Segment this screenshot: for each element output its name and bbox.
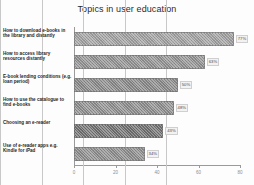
x-axis-tick-label: 0 <box>73 170 76 175</box>
bar <box>74 147 145 161</box>
bar <box>74 78 178 92</box>
category-label: How to use the catalogue to find e-books <box>3 97 72 108</box>
bar <box>74 101 174 115</box>
x-axis-tick <box>157 165 158 168</box>
bar-value-label: 48% <box>176 104 188 112</box>
category-label: Use of e-reader apps e.g. Kindle for iPa… <box>3 143 72 154</box>
bar-value-label: 50% <box>180 81 192 89</box>
bar <box>74 55 205 69</box>
chart-title: Topics in user education <box>0 4 254 14</box>
category-label: E-book lending conditions (e.g. loan per… <box>3 74 72 85</box>
gridline <box>0 0 1 185</box>
bar-row: 43% <box>74 124 240 138</box>
x-axis-tick <box>116 165 117 168</box>
bar-value-label: 34% <box>147 150 159 158</box>
bar-value-label: 43% <box>165 127 177 135</box>
bar-row: 77% <box>74 32 240 46</box>
bar <box>74 32 234 46</box>
bar-row: 50% <box>74 78 240 92</box>
x-axis-tick <box>199 165 200 168</box>
x-axis-tick <box>240 165 241 168</box>
category-label: How to download e-books in the library a… <box>3 28 72 39</box>
bar-value-label: 63% <box>207 58 219 66</box>
bar-row: 63% <box>74 55 240 69</box>
x-axis-tick <box>74 165 75 168</box>
x-axis-tick-label: 20 <box>113 170 118 175</box>
bar-row: 48% <box>74 101 240 115</box>
x-axis-tick-label: 40 <box>154 170 159 175</box>
bar-row: 34% <box>74 147 240 161</box>
category-label: How to access library resources distantl… <box>3 51 72 62</box>
x-axis-tick-label: 60 <box>196 170 201 175</box>
bar <box>74 124 163 138</box>
x-axis-tick-label: 80 <box>237 170 242 175</box>
plot-area: 77%63%50%48%43%34% <box>74 27 240 165</box>
chart-container: Topics in user education 77%63%50%48%43%… <box>0 0 254 185</box>
bar-value-label: 77% <box>236 35 248 43</box>
category-label: Choosing an e-reader <box>3 120 72 125</box>
